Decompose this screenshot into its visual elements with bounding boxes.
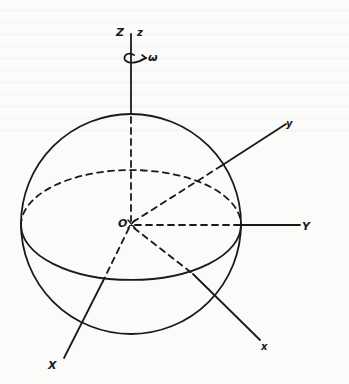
X-axis-inner-dashed: [103, 228, 129, 281]
diagram-canvas: O Z z ω y Y X x: [0, 0, 349, 384]
label-omega: ω: [148, 51, 158, 64]
equator-front: [21, 225, 241, 280]
label-Z: Z: [115, 26, 125, 39]
label-x-body: x: [260, 341, 268, 352]
label-origin: O: [118, 217, 127, 230]
label-y-body: y: [286, 118, 293, 129]
label-z: z: [136, 27, 143, 38]
x-body-axis-inner-dashed: [134, 228, 193, 274]
X-axis-outer: [64, 281, 103, 358]
sphere-coordinate-diagram: O Z z ω y Y X x: [0, 0, 349, 384]
y-body-axis-outer: [221, 124, 286, 166]
label-Y: Y: [302, 220, 311, 233]
label-X: X: [47, 359, 57, 372]
